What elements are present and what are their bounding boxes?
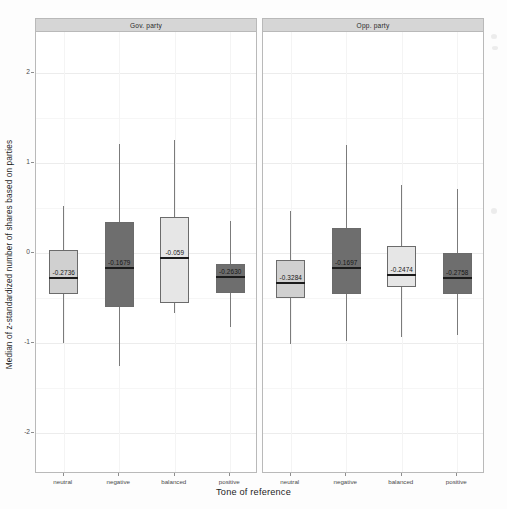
median-line [276,282,305,284]
x-axis-tick-label-positive: positive [199,478,259,485]
median-line [332,267,361,269]
median-line [49,277,78,279]
median-value-label: -0.2736 [35,269,94,276]
median-line [443,277,472,279]
facet-strip: Gov. party [36,19,256,32]
y-axis-tick-label: 0 [4,248,30,255]
y-axis-tick-label: 2 [4,68,30,75]
x-axis-tick-label-neutral: neutral [33,478,93,485]
x-axis-tick-label-balanced: balanced [371,478,431,485]
median-line [105,267,134,269]
y-axis-tick-mark [31,432,34,433]
scan-artifact [492,46,498,50]
boxplot-balanced: -0.059 [147,32,203,472]
facet-strip: Opp. party [263,19,483,32]
boxplot-positive: -0.2630 [203,32,258,472]
boxplot-positive: -0.2758 [430,32,485,472]
y-axis-tick-label: -2 [4,428,30,435]
x-axis-tick-label-negative: negative [88,478,148,485]
x-axis-tick-mark [401,473,402,476]
box-iqr [160,217,189,303]
boxplot-figure: Median of z-standardized number of share… [0,0,507,509]
y-axis-tick-mark [31,252,34,253]
plot-area: -0.2736-0.1679-0.059-0.2630 [36,32,256,472]
x-axis-tick-mark [63,473,64,476]
x-axis-tick-mark [118,473,119,476]
y-axis-tick-mark [31,162,34,163]
x-axis-tick-mark [345,473,346,476]
median-value-label: -0.1697 [316,259,376,266]
boxplot-negative: -0.1697 [319,32,375,472]
facet-panel-opp-party: Opp. party-0.3284-0.1697-0.2474-0.2758 [262,18,484,473]
median-value-label: -0.059 [145,249,205,256]
y-axis-tick-label: 1 [4,158,30,165]
x-axis-tick-mark [229,473,230,476]
boxplot-neutral: -0.2736 [36,32,92,472]
plot-area: -0.3284-0.1697-0.2474-0.2758 [263,32,483,472]
median-line [160,257,189,259]
median-value-label: -0.2474 [372,266,432,273]
x-axis-tick-label-positive: positive [426,478,486,485]
boxplot-negative: -0.1679 [92,32,148,472]
median-value-label: -0.2630 [200,268,257,275]
x-axis-title: Tone of reference [0,487,507,497]
median-value-label: -0.1679 [89,259,149,266]
boxplot-balanced: -0.2474 [374,32,430,472]
y-axis-tick-mark [31,342,34,343]
x-axis-tick-label-balanced: balanced [144,478,204,485]
scan-artifact [491,208,497,214]
median-line [387,274,416,276]
median-value-label: -0.2758 [427,269,484,276]
median-value-label: -0.3284 [262,274,321,281]
y-axis-tick-mark [31,72,34,73]
x-axis-tick-mark [290,473,291,476]
x-axis-tick-label-negative: negative [315,478,375,485]
y-axis-tick-label: -1 [4,338,30,345]
median-line [216,276,245,278]
facet-strip-label: Opp. party [357,22,390,29]
facet-panel-gov-party: Gov. party-0.2736-0.1679-0.059-0.2630 [35,18,257,473]
x-axis-tick-mark [174,473,175,476]
facet-strip-label: Gov. party [130,22,162,29]
x-axis-tick-label-neutral: neutral [260,478,320,485]
boxplot-neutral: -0.3284 [263,32,319,472]
x-axis-tick-mark [456,473,457,476]
scan-artifact [491,34,497,39]
